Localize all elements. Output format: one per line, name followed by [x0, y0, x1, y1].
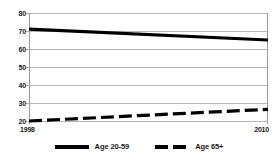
y-tick-label: 50: [19, 64, 26, 71]
y-tick-label: 60: [19, 46, 26, 53]
y-axis-labels: 80 70 60 50 40 30 20: [6, 0, 26, 136]
y-tick-label: 30: [19, 100, 26, 107]
y-tick-label: 40: [19, 82, 26, 89]
y-tick-label: 20: [19, 118, 26, 125]
y-tick-label: 70: [19, 28, 26, 35]
line-chart: 80 70 60 50 40 30 20 1998 2010 Age 20-59…: [0, 0, 278, 158]
legend-item-age-65-plus: Age 65+: [155, 143, 223, 151]
x-tick-label-end: 2010: [254, 126, 269, 133]
plot-area: 80 70 60 50 40 30 20 1998 2010: [0, 0, 278, 136]
series-line-age-65-plus: [29, 109, 268, 121]
y-tick-label: 80: [19, 10, 26, 17]
dashed-line-swatch: [155, 145, 189, 149]
series-line-age-20-59: [29, 29, 268, 40]
solid-line-swatch: [55, 145, 89, 149]
chart-legend: Age 20-59 Age 65+: [0, 136, 278, 158]
legend-item-age-20-59: Age 20-59: [55, 143, 130, 151]
x-tick-label-start: 1998: [20, 126, 35, 133]
legend-label: Age 65+: [195, 143, 223, 151]
legend-label: Age 20-59: [95, 143, 130, 151]
plot-svg: [0, 0, 278, 136]
